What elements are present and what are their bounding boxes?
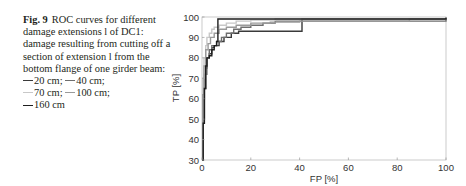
y-tick-label: 80	[188, 52, 199, 63]
y-tick-label: 30	[188, 155, 199, 166]
y-axis-label: TP [%]	[170, 74, 181, 102]
x-tick-label: 40	[294, 162, 305, 173]
axis-ticks: 02040608010030405060708090100	[183, 12, 454, 174]
series-lines	[202, 17, 446, 160]
y-tick-label: 50	[188, 114, 199, 125]
plot-area	[202, 17, 446, 160]
roc-curve-20cm	[202, 17, 446, 160]
roc-curve-160cm	[202, 18, 446, 160]
y-tick-label: 40	[188, 134, 199, 145]
y-tick-label: 70	[188, 73, 199, 84]
roc-chart: 02040608010030405060708090100 FP [%] TP …	[0, 0, 466, 186]
x-tick-label: 20	[246, 162, 257, 173]
roc-curve-40cm	[202, 17, 446, 160]
x-tick-label: 60	[343, 162, 354, 173]
roc-curve-100cm	[202, 17, 446, 160]
y-tick-label: 90	[188, 32, 199, 43]
y-tick-label: 60	[188, 93, 199, 104]
roc-curve-70cm	[202, 17, 446, 160]
y-tick-label: 100	[183, 12, 199, 23]
x-tick-label: 0	[199, 162, 204, 173]
x-tick-label: 100	[438, 162, 454, 173]
x-axis-label: FP [%]	[310, 173, 338, 184]
x-tick-label: 80	[392, 162, 403, 173]
